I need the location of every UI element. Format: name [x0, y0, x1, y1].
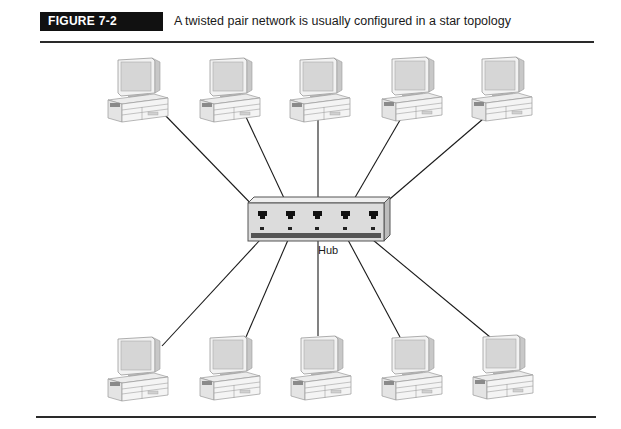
- hub-label: Hub: [318, 244, 338, 256]
- star-topology-diagram: [0, 0, 621, 429]
- cable-top-5: [377, 113, 490, 210]
- cable-bottom-1: [162, 240, 260, 346]
- computer-icon: [472, 57, 532, 121]
- cable-bottom-2: [246, 240, 288, 337]
- cable-bottom-4: [348, 240, 400, 337]
- computer-icon: [108, 337, 168, 401]
- computer-icon: [290, 58, 350, 122]
- computer-icon: [200, 58, 260, 122]
- hub-device: [248, 197, 390, 241]
- computer-icon: [200, 336, 260, 400]
- computer-icon: [108, 58, 168, 122]
- cable-bottom-5: [373, 240, 490, 337]
- computer-icon: [382, 336, 442, 400]
- computer-icon: [382, 57, 442, 121]
- computer-icon: [473, 335, 533, 399]
- workstations-top: [108, 57, 532, 122]
- cable-top-1: [163, 113, 260, 213]
- workstations-bottom: [108, 335, 533, 401]
- computer-icon: [291, 336, 351, 400]
